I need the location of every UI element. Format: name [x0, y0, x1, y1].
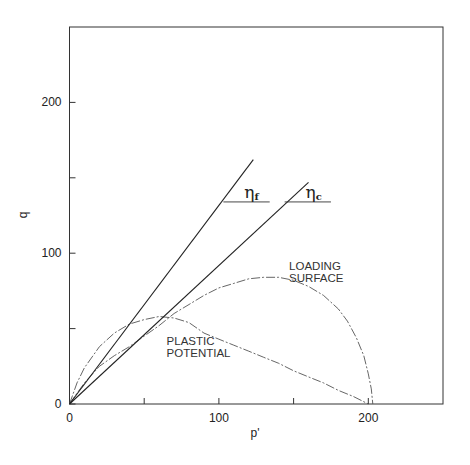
- eta-subscript: f: [254, 191, 259, 202]
- y-tick-label: 200: [41, 95, 61, 109]
- annotation-surface: SURFACE: [289, 272, 344, 284]
- y-tick-label: 100: [41, 246, 61, 260]
- eta-subscript: c: [316, 191, 322, 202]
- y-axis-label: q: [16, 212, 30, 219]
- annotation-potential: POTENTIAL: [167, 347, 232, 359]
- x-tick-label: 100: [209, 411, 229, 425]
- plot-frame: [70, 27, 444, 404]
- x-tick-label: 0: [66, 411, 73, 425]
- plastic-potential-curve: [70, 317, 369, 405]
- x-tick-label: 200: [358, 411, 378, 425]
- annotation-loading: LOADING: [289, 260, 341, 272]
- eta-f-label: ηf: [244, 182, 259, 202]
- y-tick-label: 0: [55, 397, 62, 411]
- x-axis-label: p': [251, 426, 260, 440]
- eta-c-label: ηc: [306, 182, 322, 202]
- chart: 01002000100200 LOADINGSURFACEPLASTICPOTE…: [0, 0, 470, 465]
- eta-f-line-curve: [70, 160, 254, 404]
- annotation-plastic: PLASTIC: [167, 335, 215, 347]
- labels-group: LOADINGSURFACEPLASTICPOTENTIALηfηc: [167, 182, 344, 359]
- eta-c-line-curve: [70, 182, 309, 404]
